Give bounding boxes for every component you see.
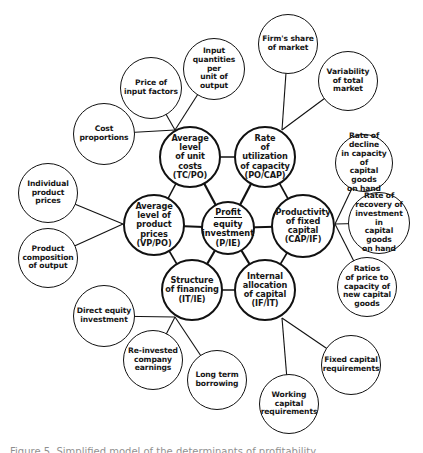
node-label: Average level of unit costs (TC/PO) <box>161 134 219 180</box>
node-fixed-capital-req: Fixed capital requirements <box>321 335 381 395</box>
node-cost-proportions: Cost proportions <box>73 103 135 165</box>
node-firms-share: Firm's share of market <box>258 14 318 74</box>
node-profit-equity-investment: Profitequity investment (P/IE) <box>201 201 255 255</box>
node-label: Variability of total market <box>319 68 377 94</box>
node-label: Individual product prices <box>19 180 77 206</box>
node-product-prices: Average level of product prices (VP/PO) <box>123 194 185 256</box>
node-individual-prices: Individual product prices <box>18 163 78 223</box>
node-direct-equity: Direct equity investment <box>73 285 135 347</box>
node-market-variability: Variability of total market <box>318 51 378 111</box>
node-working-capital: Working capital requirements <box>259 374 319 434</box>
node-capital-allocation: Internal allocation of capital (IF/IT) <box>234 259 296 321</box>
node-capacity-utilization: Rate of utilization of capacity (PO/CAP) <box>234 126 296 188</box>
node-label: Internal allocation of capital (IF/IT) <box>241 272 289 309</box>
node-financing-structure: Structure of financing (IT/IE) <box>161 259 223 321</box>
node-label: Re-invested company earnings <box>126 347 180 373</box>
node-product-composition: Product composition of output <box>18 228 78 288</box>
node-capacity-decline: Rate of decline in capacity of capital g… <box>335 134 393 192</box>
node-label: Price of input factors <box>122 79 180 97</box>
figure-caption: Figure 5. Simplified model of the determ… <box>10 445 420 453</box>
node-label: Rate of decline in capacity of capital g… <box>336 132 392 194</box>
node-label: Firm's share of market <box>260 35 316 53</box>
node-unit-costs: Average level of unit costs (TC/PO) <box>159 126 221 188</box>
node-input-quantities: Input quantities per unit of output <box>183 38 245 100</box>
node-label: Ratios of price to capacity of new capit… <box>341 265 393 309</box>
node-label: Product composition of output <box>20 245 75 271</box>
node-long-term-borrowing: Long term borrowing <box>187 350 247 410</box>
node-label: Cost proportions <box>77 125 130 143</box>
node-investment-recovery: Rate of recovery of investment in capita… <box>348 192 410 254</box>
node-input-prices: Price of input factors <box>120 57 182 119</box>
node-reinvested-earnings: Re-invested company earnings <box>123 330 183 390</box>
node-label: Direct equity investment <box>75 307 133 325</box>
node-label: Rate of recovery of investment in capita… <box>349 192 409 254</box>
node-label: Input quantities per unit of output <box>184 47 244 91</box>
node-label: Structure of financing (IT/IE) <box>163 276 221 304</box>
fraction-denominator: equity investment (P/IE) <box>202 220 254 248</box>
node-label: Average level of product prices (VP/PO) <box>125 202 183 248</box>
node-label: Working capital requirements <box>259 391 320 417</box>
node-label: Long term borrowing <box>193 371 240 389</box>
node-label: Productivity of fixed capital (CAP/IF) <box>273 208 333 245</box>
node-fixed-capital-productivity: Productivity of fixed capital (CAP/IF) <box>271 194 335 258</box>
node-price-capacity-ratios: Ratios of price to capacity of new capit… <box>337 257 397 317</box>
node-label: Fixed capital requirements <box>321 356 382 374</box>
fraction-label: Profitequity investment (P/IE) <box>202 208 254 248</box>
fraction-numerator: Profit <box>214 208 242 218</box>
node-label: Rate of utilization of capacity (PO/CAP) <box>236 134 294 180</box>
